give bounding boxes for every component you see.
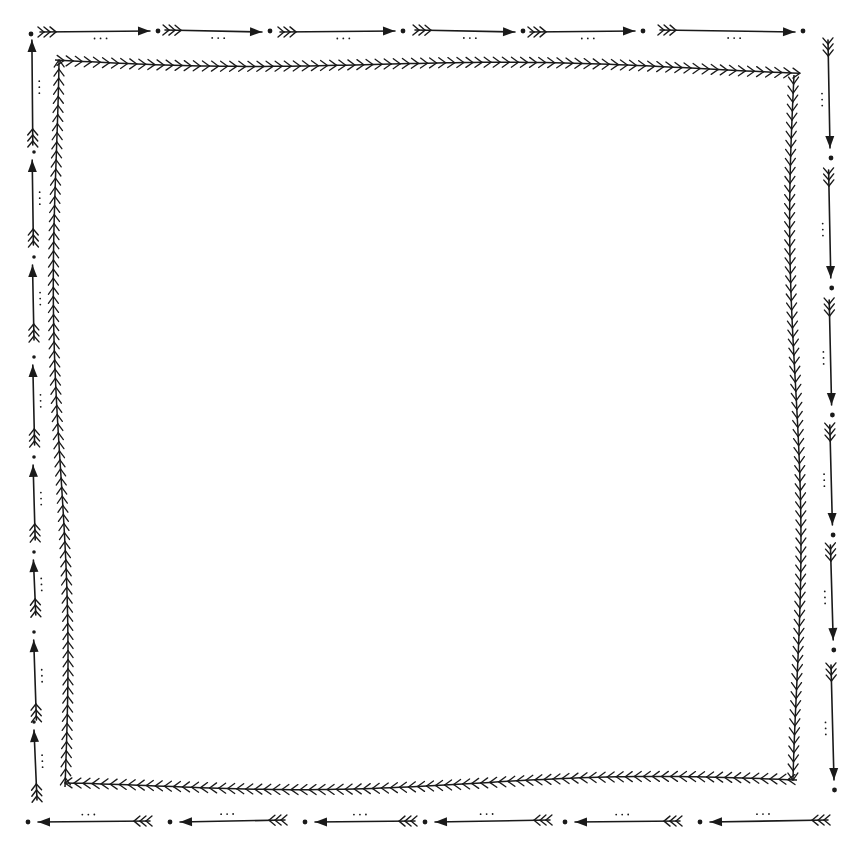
decorative-frame (0, 0, 858, 861)
